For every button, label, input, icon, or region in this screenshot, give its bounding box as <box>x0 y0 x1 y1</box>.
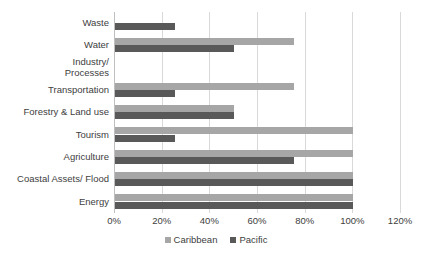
legend-label: Pacific <box>239 234 267 246</box>
bar-group <box>114 101 400 123</box>
category-label: Water <box>0 34 109 56</box>
bar-group <box>114 191 400 213</box>
bar-pacific <box>115 202 353 209</box>
legend-item-pacific[interactable]: Pacific <box>230 234 267 246</box>
bar-caribbean <box>115 127 353 134</box>
category-label: Agriculture <box>0 146 109 168</box>
category-label-line: Tourism <box>76 130 109 141</box>
category-label-line: Agriculture <box>64 152 109 163</box>
x-tick-label: 40% <box>200 215 219 227</box>
bar-group <box>114 79 400 101</box>
legend-swatch-icon <box>165 237 171 243</box>
x-tick-label: 0% <box>107 215 121 227</box>
x-tick-label: 20% <box>152 215 171 227</box>
bar-group <box>114 124 400 146</box>
category-label: Forestry & Land use <box>0 101 109 123</box>
bar-caribbean <box>115 194 353 201</box>
category-label: Energy <box>0 191 109 213</box>
category-label: Tourism <box>0 124 109 146</box>
bar-pacific <box>115 45 234 52</box>
gridline-120 <box>400 12 401 213</box>
legend-label: Caribbean <box>174 234 218 246</box>
category-label: Transportation <box>0 79 109 101</box>
legend-item-caribbean[interactable]: Caribbean <box>165 234 218 246</box>
category-label-line: Waste <box>82 18 109 29</box>
bar-rows <box>114 12 400 213</box>
bar-pacific <box>115 179 353 186</box>
x-tick-label: 60% <box>247 215 266 227</box>
category-label-line: Coastal Assets/ Flood <box>17 174 109 185</box>
bar-chart: WasteWaterIndustry/ProcessesTransportati… <box>0 0 432 260</box>
bar-group <box>114 12 400 34</box>
bar-group <box>114 146 400 168</box>
category-label-line: Processes <box>65 68 109 79</box>
bar-group <box>114 34 400 56</box>
bar-caribbean <box>115 105 234 112</box>
y-axis-category-labels: WasteWaterIndustry/ProcessesTransportati… <box>0 12 109 213</box>
chart-legend: CaribbeanPacific <box>0 234 432 246</box>
bar-caribbean <box>115 150 353 157</box>
x-axis-tick-labels: 0%20%40%60%80%100%120% <box>114 215 400 229</box>
legend-swatch-icon <box>230 237 236 243</box>
plot-area <box>114 12 400 213</box>
bar-pacific <box>115 157 294 164</box>
category-label: Waste <box>0 12 109 34</box>
bar-pacific <box>115 135 175 142</box>
bar-caribbean <box>115 38 294 45</box>
x-tick-label: 120% <box>388 215 412 227</box>
bar-pacific <box>115 112 234 119</box>
category-label-line: Water <box>84 40 109 51</box>
bar-group <box>114 57 400 79</box>
category-label-line: Energy <box>79 197 109 208</box>
bar-pacific <box>115 23 175 30</box>
category-label-line: Transportation <box>48 85 109 96</box>
category-label: Coastal Assets/ Flood <box>0 168 109 190</box>
category-label: Industry/Processes <box>0 57 109 79</box>
category-label-line: Forestry & Land use <box>23 107 109 118</box>
bar-caribbean <box>115 172 353 179</box>
x-tick-label: 100% <box>340 215 364 227</box>
bar-pacific <box>115 90 175 97</box>
bar-caribbean <box>115 83 294 90</box>
bar-group <box>114 168 400 190</box>
x-tick-label: 80% <box>295 215 314 227</box>
